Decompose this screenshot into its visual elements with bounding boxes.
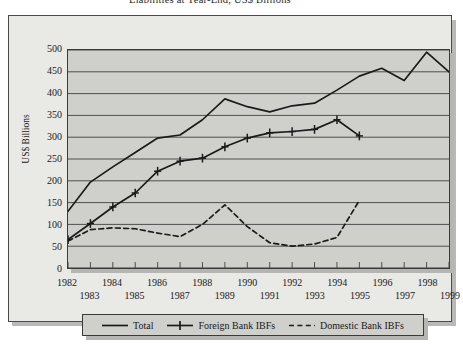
y-tick-label: 350 <box>28 110 62 120</box>
chart-legend: TotalForeign Bank IBFsDomestic Bank IBFs <box>82 314 424 336</box>
series-marker-plus <box>356 132 363 141</box>
y-tick-label: 250 <box>28 154 62 164</box>
series-marker-plus <box>244 134 251 143</box>
y-tick-label: 400 <box>28 88 62 98</box>
y-tick-label: 150 <box>28 198 62 208</box>
series-marker-plus <box>87 219 94 228</box>
x-tick-label: 1987 <box>160 291 200 301</box>
y-tick-label: 0 <box>28 264 62 274</box>
series-marker-plus <box>333 115 340 124</box>
x-tick-label: 1994 <box>317 278 357 288</box>
y-tick-label: 300 <box>28 132 62 142</box>
x-tick-label: 1983 <box>70 291 110 301</box>
legend-item: Foreign Bank IBFs <box>167 320 275 331</box>
legend-item: Domestic Bank IBFs <box>289 320 404 331</box>
y-tick-label: 50 <box>28 242 62 252</box>
x-tick-label: 1996 <box>362 278 402 288</box>
series-marker-plus <box>311 125 318 134</box>
series-marker-plus <box>289 127 296 136</box>
x-tick-label: 1997 <box>385 291 425 301</box>
legend-swatch-icon <box>167 320 193 331</box>
figure-frame: US$ Billions 050100150200250300350400450… <box>8 15 452 322</box>
y-tick-label: 500 <box>28 44 62 54</box>
series-marker-plus <box>199 154 206 163</box>
series-line-foreign-bank-ibfs <box>68 120 359 240</box>
chart-canvas <box>68 50 449 268</box>
legend-label: Domestic Bank IBFs <box>320 320 404 331</box>
x-tick-label: 1999 <box>430 291 463 301</box>
x-tick-label: 1998 <box>407 278 447 288</box>
x-tick-label: 1992 <box>272 278 312 288</box>
series-marker-plus <box>109 203 116 212</box>
x-axis-ticks <box>68 262 449 268</box>
data-series-layer <box>68 52 449 246</box>
x-tick-label: 1995 <box>340 291 380 301</box>
figure-title: Liabilities at Year-End, US$ Billions <box>0 0 420 7</box>
x-tick-label: 1986 <box>137 278 177 288</box>
series-marker-plus <box>176 157 183 166</box>
x-tick-label: 1985 <box>115 291 155 301</box>
y-tick-label: 100 <box>28 220 62 230</box>
x-tick-label: 1984 <box>92 278 132 288</box>
legend-swatch-icon <box>289 320 315 331</box>
x-tick-label: 1988 <box>182 278 222 288</box>
x-tick-label: 1991 <box>250 291 290 301</box>
series-marker-plus <box>266 128 273 137</box>
plot-area <box>67 49 450 269</box>
series-marker-plus <box>221 142 228 151</box>
x-tick-label: 1993 <box>295 291 335 301</box>
y-tick-label: 200 <box>28 176 62 186</box>
y-tick-label: 450 <box>28 66 62 76</box>
legend-label: Total <box>133 320 153 331</box>
legend-swatch-icon <box>102 320 128 331</box>
legend-label: Foreign Bank IBFs <box>198 320 275 331</box>
legend-item: Total <box>102 320 153 331</box>
x-tick-label: 1982 <box>47 278 87 288</box>
x-tick-label: 1989 <box>205 291 245 301</box>
series-line-total <box>68 52 449 211</box>
x-tick-label: 1990 <box>227 278 267 288</box>
